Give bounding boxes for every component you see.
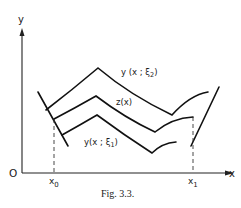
curve-z-label: z(x) — [116, 97, 132, 107]
left-boundary-line — [38, 92, 68, 146]
curve-y-xi2-label: y (x ; ξ2) — [121, 67, 158, 79]
figure-diagram: y x O x0 x1 y (x ; ξ2) z(x) y(x ; ξ1) Fi… — [0, 0, 241, 208]
y-axis: y — [18, 14, 25, 173]
y-axis-label: y — [18, 14, 24, 25]
x0-label: x0 — [49, 176, 59, 189]
origin-label: O — [9, 167, 17, 179]
y-axis-arrow-icon — [20, 28, 25, 36]
curve-y-xi1-label: y(x ; ξ1) — [84, 137, 118, 149]
figure-caption: Fig. 3.3. — [101, 188, 134, 199]
x1-label: x1 — [188, 176, 198, 189]
x-axis-label: x — [229, 168, 235, 179]
curve-y-xi1 — [62, 115, 176, 153]
